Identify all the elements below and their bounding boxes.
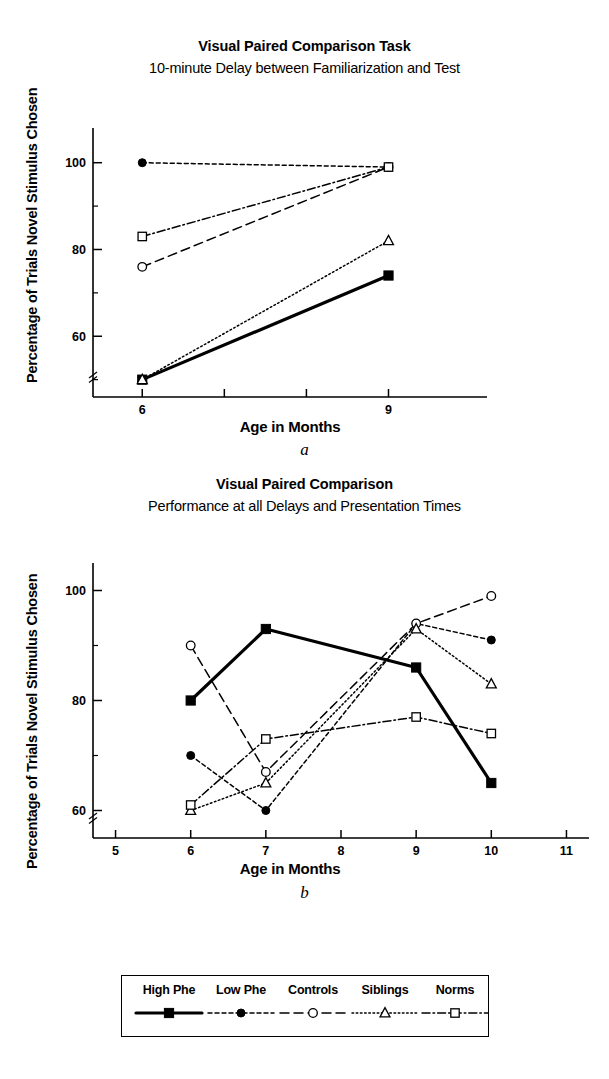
legend-label: High Phe bbox=[128, 983, 210, 997]
legend-item-controls: Controls bbox=[272, 983, 354, 1023]
legend-item-low-phe: Low Phe bbox=[200, 983, 282, 1023]
legend-item-norms: Norms bbox=[414, 983, 496, 1023]
series-high-phe bbox=[186, 624, 496, 787]
legend-sample-filled-circle-icon bbox=[200, 1003, 282, 1023]
y-tick-label: 80 bbox=[72, 694, 86, 708]
x-tick-label: 10 bbox=[484, 844, 498, 858]
legend-label: Controls bbox=[272, 983, 354, 997]
y-tick-label: 100 bbox=[65, 584, 86, 598]
legend-label: Low Phe bbox=[200, 983, 282, 997]
x-tick-label: 5 bbox=[112, 844, 119, 858]
series-norms bbox=[186, 713, 495, 809]
legend-sample-open-square-icon bbox=[414, 1003, 496, 1023]
x-tick-label: 9 bbox=[413, 844, 420, 858]
legend-sample-filled-square-icon bbox=[128, 1003, 210, 1023]
y-tick-label: 60 bbox=[72, 804, 86, 818]
axis-group: 6080100567891011 bbox=[65, 563, 589, 858]
legend-label: Norms bbox=[414, 983, 496, 997]
legend: High PheLow PheControlsSiblingsNorms bbox=[121, 975, 489, 1037]
legend-item-high-phe: High Phe bbox=[128, 983, 210, 1023]
legend-sample-open-circle-icon bbox=[272, 1003, 354, 1023]
x-tick-label: 6 bbox=[187, 844, 194, 858]
x-tick-label: 11 bbox=[560, 844, 573, 858]
series-controls bbox=[186, 592, 495, 777]
panel-b-plot: 6080100567891011 bbox=[0, 0, 609, 1079]
x-tick-label: 7 bbox=[262, 844, 269, 858]
figure-visual-paired-comparison: Visual Paired Comparison Task 10-minute … bbox=[0, 0, 609, 1079]
x-tick-label: 8 bbox=[338, 844, 345, 858]
